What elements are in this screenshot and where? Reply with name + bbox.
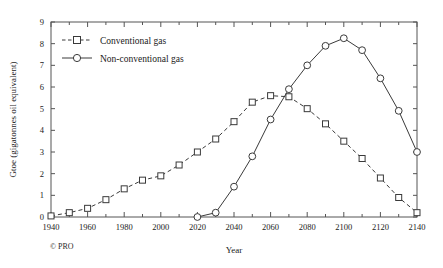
x-tick-label: 2040	[226, 222, 243, 232]
data-point-marker	[359, 156, 365, 162]
data-point-marker	[395, 107, 402, 114]
y-tick-label: 9	[40, 17, 44, 27]
data-point-marker	[212, 209, 219, 216]
x-tick-label: 2140	[409, 222, 426, 232]
data-point-marker	[267, 116, 274, 123]
data-point-marker	[323, 121, 329, 127]
data-point-marker	[231, 183, 238, 190]
data-point-marker	[268, 93, 274, 99]
y-tick-label: 2	[40, 169, 44, 179]
data-point-marker	[103, 197, 109, 203]
y-tick-label: 7	[40, 60, 44, 70]
data-point-marker	[304, 62, 311, 69]
data-point-marker	[359, 47, 366, 54]
legend-marker-circle-icon	[73, 54, 80, 61]
data-point-marker	[121, 186, 127, 192]
x-tick-label: 2000	[152, 222, 169, 232]
x-tick-label: 2060	[262, 222, 279, 232]
data-point-marker	[414, 149, 421, 156]
data-point-marker	[304, 106, 310, 112]
legend-label-non-conventional-gas: Non-conventional gas	[100, 54, 184, 64]
data-point-marker	[414, 210, 420, 216]
y-tick-label: 8	[40, 39, 44, 49]
data-point-marker	[158, 173, 164, 179]
data-point-marker	[286, 94, 292, 100]
data-point-marker	[194, 149, 200, 155]
chart-figure: 0123456789 19401960198020002020204020602…	[0, 0, 443, 268]
data-point-marker	[176, 162, 182, 168]
data-point-marker	[377, 75, 384, 82]
data-point-marker	[396, 195, 402, 201]
data-point-marker	[341, 138, 347, 144]
y-tick-label: 1	[40, 190, 44, 200]
data-point-marker	[48, 213, 54, 219]
credit-label: © PRO	[50, 242, 74, 251]
data-point-marker	[340, 35, 347, 42]
x-tick-label: 1940	[43, 222, 60, 232]
legend-label-conventional-gas: Conventional gas	[100, 36, 167, 46]
y-tick-label: 5	[40, 104, 44, 114]
data-point-marker	[85, 205, 91, 211]
data-point-marker	[377, 175, 383, 181]
legend-marker-square-icon	[74, 37, 81, 44]
x-tick-label: 2100	[335, 222, 352, 232]
data-point-marker	[194, 214, 201, 221]
x-axis-title: Year	[226, 245, 243, 255]
y-tick-label: 3	[40, 147, 44, 157]
data-point-marker	[322, 42, 329, 49]
y-axis-title: Gtoe (gigatonnes oil equivalent)	[8, 61, 18, 177]
y-tick-label: 6	[40, 82, 44, 92]
x-tick-label: 2120	[372, 222, 389, 232]
gas-production-line-chart: 0123456789 19401960198020002020204020602…	[0, 0, 443, 268]
x-tick-label: 1960	[79, 222, 96, 232]
data-point-marker	[66, 210, 72, 216]
x-tick-label: 1980	[116, 222, 133, 232]
data-point-marker	[213, 136, 219, 142]
data-point-marker	[249, 153, 256, 160]
x-tick-label: 2080	[299, 222, 316, 232]
data-point-marker	[140, 177, 146, 183]
data-point-marker	[231, 119, 237, 125]
data-point-marker	[249, 99, 255, 105]
x-tick-label: 2020	[189, 222, 206, 232]
y-tick-label: 0	[40, 212, 44, 222]
data-point-marker	[286, 86, 293, 93]
